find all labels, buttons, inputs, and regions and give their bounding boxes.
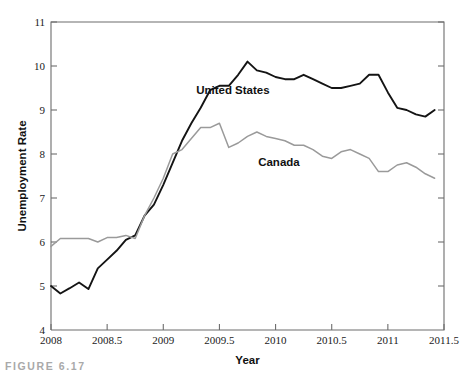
series-line-canada — [51, 123, 435, 246]
x-tick-label: 2010.5 — [317, 334, 348, 346]
y-tick-label: 6 — [40, 236, 46, 248]
y-axis-title: Unemployment Rate — [16, 120, 28, 231]
x-tick-label: 2009 — [152, 334, 175, 346]
y-tick-label: 4 — [40, 324, 46, 336]
unemployment-rate-line-chart: 20082008.520092009.520102010.520112011.5… — [0, 0, 471, 385]
series-label-united-states: United States — [196, 84, 270, 96]
x-tick-label: 2011.5 — [429, 334, 459, 346]
x-axis-title: Year — [235, 354, 260, 366]
y-tick-label: 10 — [34, 60, 46, 72]
y-tick-label: 7 — [40, 192, 46, 204]
series-label-canada: Canada — [258, 156, 300, 168]
x-tick-label: 2010 — [265, 334, 288, 346]
axis-frame — [51, 22, 444, 330]
x-tick-label: 2011 — [377, 334, 399, 346]
y-tick-label: 9 — [40, 104, 46, 116]
x-axis-ticks — [51, 324, 444, 330]
x-axis-tick-labels: 20082008.520092009.520102010.520112011.5 — [40, 334, 459, 346]
y-tick-label: 11 — [34, 16, 45, 28]
figure-caption: FIGURE 6.17 — [5, 360, 86, 372]
y-tick-label: 5 — [40, 280, 46, 292]
series-line-united-states — [51, 62, 435, 294]
x-tick-label: 2009.5 — [204, 334, 235, 346]
x-tick-label: 2008.5 — [92, 334, 123, 346]
y-axis-tick-labels: 4567891011 — [34, 16, 46, 336]
series-lines — [51, 62, 435, 294]
y-tick-label: 8 — [40, 148, 46, 160]
figure-container: 20082008.520092009.520102010.520112011.5… — [0, 0, 471, 385]
